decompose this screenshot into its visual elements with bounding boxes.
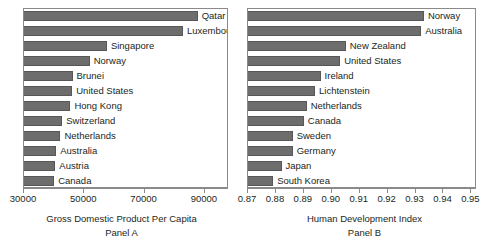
bar-label-germany: Germany — [297, 143, 336, 158]
bar-row: United States — [248, 54, 475, 69]
bar-row: Austria — [24, 159, 227, 174]
bar-row: United States — [24, 84, 227, 99]
figure-two-panel-bar-charts: QatarLuxembourgSingaporeNorwayBruneiUnit… — [0, 0, 486, 247]
bar-label-canada: Canada — [58, 173, 91, 188]
x-tick-label: 90000 — [191, 193, 217, 204]
bar-norway — [24, 56, 90, 66]
bar-label-netherlands: Netherlands — [64, 128, 115, 143]
bar-switzerland — [24, 116, 62, 126]
bar-netherlands — [248, 101, 307, 111]
bar-row: South Korea — [248, 174, 475, 188]
bar-japan — [248, 161, 282, 171]
bar-row: Norway — [24, 54, 227, 69]
bar-label-canada: Canada — [308, 113, 341, 128]
bar-label-australia: Australia — [425, 23, 462, 38]
bar-row: Luxembourg — [24, 24, 227, 39]
bar-label-singapore: Singapore — [111, 38, 154, 53]
bar-hong-kong — [24, 101, 70, 111]
bar-sweden — [248, 131, 293, 141]
x-tick-label: 0.90 — [322, 193, 341, 204]
panel-b-caption-subtitle: Panel B — [243, 227, 486, 239]
bar-label-united-states: United States — [344, 53, 401, 68]
bar-netherlands — [24, 131, 60, 141]
bar-row: Qatar — [24, 9, 227, 24]
bar-label-qatar: Qatar — [202, 8, 226, 23]
bar-label-brunei: Brunei — [77, 68, 104, 83]
bar-ireland — [248, 71, 321, 81]
panel-a: QatarLuxembourgSingaporeNorwayBruneiUnit… — [0, 0, 243, 247]
x-tick-label: 0.91 — [349, 193, 368, 204]
bar-canada — [24, 176, 54, 186]
bar-label-hong-kong: Hong Kong — [74, 98, 122, 113]
bar-label-netherlands: Netherlands — [311, 98, 362, 113]
bar-row: Switzerland — [24, 114, 227, 129]
x-tick-label: 0.87 — [238, 193, 257, 204]
x-tick-label: 0.88 — [266, 193, 285, 204]
bar-united-states — [248, 56, 340, 66]
bar-label-new-zealand: New Zealand — [350, 38, 406, 53]
panel-b: NorwayAustraliaNew ZealandUnited StatesI… — [243, 0, 486, 247]
panel-b-x-axis: 0.870.880.890.900.910.920.930.940.95 — [247, 188, 476, 208]
bar-row: Norway — [248, 9, 475, 24]
bar-united-states — [24, 86, 72, 96]
bar-luxembourg — [24, 26, 183, 36]
bar-norway — [248, 11, 424, 21]
bar-lichtenstein — [248, 86, 315, 96]
bar-south-korea — [248, 176, 273, 186]
panel-a-caption-subtitle: Panel A — [0, 227, 243, 239]
bar-row: Brunei — [24, 69, 227, 84]
bar-qatar — [24, 11, 198, 21]
bar-australia — [248, 26, 421, 36]
bar-row: Japan — [248, 159, 475, 174]
x-tick-label: 50000 — [70, 193, 96, 204]
x-tick-label: 0.93 — [405, 193, 424, 204]
bar-label-luxembourg: Luxembourg — [187, 23, 228, 38]
panel-b-plot-area: NorwayAustraliaNew ZealandUnited StatesI… — [247, 8, 476, 188]
bar-label-lichtenstein: Lichtenstein — [319, 83, 370, 98]
bar-germany — [248, 146, 293, 156]
bar-label-south-korea: South Korea — [277, 173, 330, 188]
bar-row: New Zealand — [248, 39, 475, 54]
bar-row: Australia — [24, 144, 227, 159]
bar-row: Canada — [24, 174, 227, 188]
x-tick-label: 0.89 — [294, 193, 313, 204]
bar-row: Canada — [248, 114, 475, 129]
bar-row: Netherlands — [248, 99, 475, 114]
bar-row: Australia — [248, 24, 475, 39]
bar-label-australia: Australia — [60, 143, 97, 158]
bar-row: Singapore — [24, 39, 227, 54]
panel-b-caption-title: Human Development Index — [243, 213, 486, 225]
x-tick-label: 0.92 — [377, 193, 396, 204]
x-tick-label: 30000 — [10, 193, 36, 204]
bar-row: Lichtenstein — [248, 84, 475, 99]
bar-label-sweden: Sweden — [297, 128, 331, 143]
x-axis-line — [247, 188, 476, 189]
x-tick-label: 0.95 — [461, 193, 480, 204]
bar-canada — [248, 116, 304, 126]
bar-row: Netherlands — [24, 129, 227, 144]
bar-label-norway: Norway — [94, 53, 126, 68]
bar-label-ireland: Ireland — [325, 68, 354, 83]
panel-a-plot-area: QatarLuxembourgSingaporeNorwayBruneiUnit… — [23, 8, 228, 188]
panel-a-caption-title: Gross Domestic Product Per Capita — [0, 213, 243, 225]
bar-label-japan: Japan — [286, 158, 312, 173]
bar-austria — [24, 161, 55, 171]
bar-row: Hong Kong — [24, 99, 227, 114]
bar-brunei — [24, 71, 73, 81]
bar-new-zealand — [248, 41, 346, 51]
bar-australia — [24, 146, 56, 156]
bar-label-switzerland: Switzerland — [66, 113, 115, 128]
panel-a-x-axis: 30000500007000090000 — [23, 188, 228, 208]
bar-row: Germany — [248, 144, 475, 159]
x-tick-label: 0.94 — [433, 193, 452, 204]
x-axis-line — [23, 188, 228, 189]
bar-label-norway: Norway — [428, 8, 460, 23]
bar-row: Ireland — [248, 69, 475, 84]
bar-row: Sweden — [248, 129, 475, 144]
bar-label-austria: Austria — [59, 158, 89, 173]
bar-singapore — [24, 41, 107, 51]
bar-label-united-states: United States — [76, 83, 133, 98]
x-tick-label: 70000 — [130, 193, 156, 204]
